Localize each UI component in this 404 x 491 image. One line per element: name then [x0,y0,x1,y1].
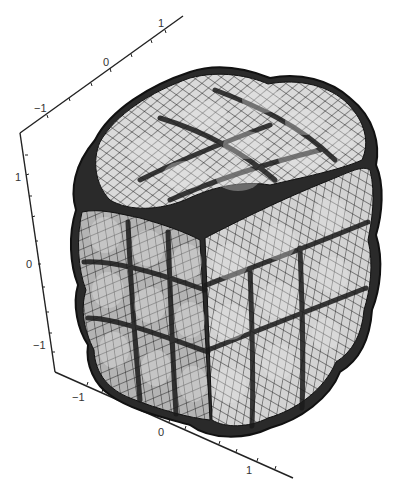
bottom-axis-tick-neg1: −1 [72,391,85,403]
left-axis-tick-0: 0 [26,258,32,270]
top-axis-tick-1: 1 [158,17,164,29]
bottom-axis-tick-0: 0 [158,426,164,438]
left-axis-tick-1: 1 [15,171,21,183]
left-axis-line [20,133,55,372]
isosurface [71,67,382,436]
surface-plot: −1 0 1 1 0 −1 −1 0 1 [0,0,404,491]
bottom-axis-tick-1: 1 [246,464,252,476]
left-axis-tick-neg1: −1 [33,339,46,351]
top-axis-tick-0: 0 [103,56,109,68]
top-axis-tick-neg1: −1 [34,102,47,114]
